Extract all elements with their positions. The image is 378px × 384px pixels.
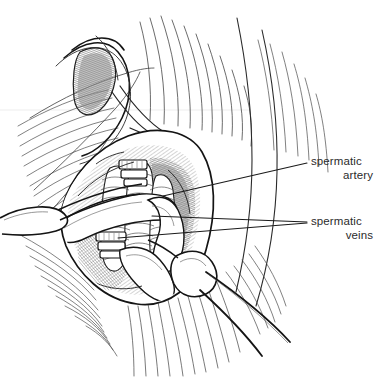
surgical-illustration-figure: spermatic artery spermatic veins <box>0 0 378 384</box>
label-spermatic-artery: spermatic artery <box>311 155 373 182</box>
label-spermatic-artery-line2: artery <box>311 169 373 183</box>
label-spermatic-veins: spermatic veins <box>311 215 373 242</box>
illustration-canvas <box>0 0 378 384</box>
label-spermatic-artery-line1: spermatic <box>311 155 362 167</box>
label-spermatic-veins-line1: spermatic <box>311 215 362 227</box>
label-spermatic-veins-line2: veins <box>311 229 373 243</box>
